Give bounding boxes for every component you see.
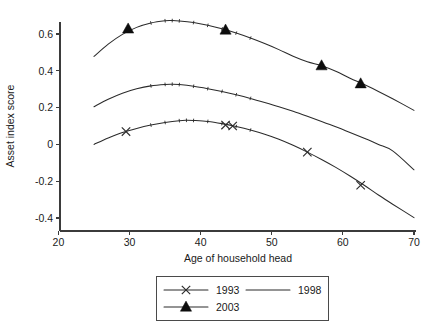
x-tick-label: 50 bbox=[266, 236, 278, 248]
y-tick-label: 0 bbox=[47, 138, 53, 150]
series-hash-tick bbox=[193, 84, 194, 88]
x-tick-label: 60 bbox=[337, 236, 349, 248]
legend-label-1993: 1993 bbox=[216, 284, 240, 296]
x-tick-label: 40 bbox=[195, 236, 207, 248]
y-tick-label: 0.4 bbox=[38, 65, 53, 77]
y-tick-label: -0.2 bbox=[35, 175, 53, 187]
legend-label-1998: 1998 bbox=[298, 284, 322, 296]
x-tick-label: 70 bbox=[408, 236, 420, 248]
series-hash-tick bbox=[207, 87, 208, 91]
y-axis-title: Asset index score bbox=[4, 84, 16, 167]
y-tick-label: 0.2 bbox=[38, 101, 53, 113]
series-hash-tick bbox=[151, 84, 152, 88]
y-tick-label: 0.6 bbox=[38, 28, 53, 40]
series-hash-tick bbox=[193, 21, 194, 25]
chart-background bbox=[0, 0, 434, 328]
chart-figure: -0.4-0.200.20.40.6 203040506070 19931998… bbox=[0, 0, 434, 328]
x-tick-label: 30 bbox=[124, 236, 136, 248]
x-tick-label: 20 bbox=[53, 236, 65, 248]
legend-label-2003: 2003 bbox=[216, 301, 240, 313]
asset-index-line-chart: -0.4-0.200.20.40.6 203040506070 19931998… bbox=[0, 0, 434, 328]
y-tick-label: -0.4 bbox=[35, 212, 53, 224]
x-axis-title: Age of household head bbox=[184, 252, 292, 264]
series-hash-tick bbox=[165, 121, 166, 125]
